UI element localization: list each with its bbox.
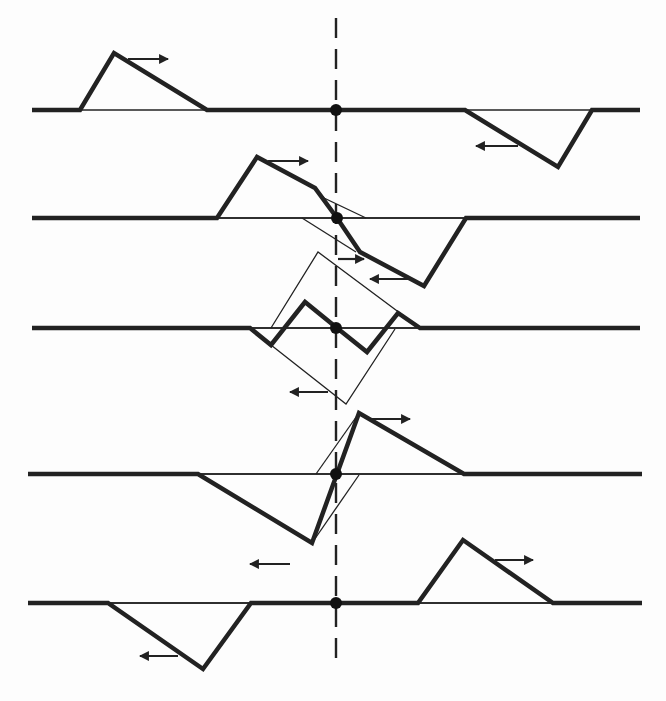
superposition-diagram <box>0 0 666 701</box>
center-point-dot <box>331 212 343 224</box>
center-point-dot <box>330 468 342 480</box>
center-point-dot <box>330 597 342 609</box>
pulse-superposition-figure <box>0 0 666 701</box>
center-point-dot <box>330 322 342 334</box>
center-point-dot <box>330 104 342 116</box>
component-pulse-outline <box>316 413 359 474</box>
